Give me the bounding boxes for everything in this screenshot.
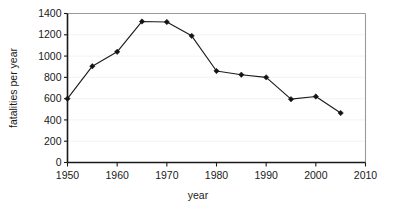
y-tick-label: 1400 — [38, 7, 62, 19]
x-tick-label: 1970 — [155, 169, 179, 181]
y-tick-label: 800 — [44, 71, 62, 83]
y-tick-label: 600 — [44, 92, 62, 104]
y-tick-label: 1000 — [38, 50, 62, 62]
y-tick-label: 0 — [56, 156, 62, 168]
y-axis-title: fatalities per year — [7, 48, 19, 128]
line-chart: 0200400600800100012001400 19501960197019… — [0, 0, 393, 215]
chart-figure: 0200400600800100012001400 19501960197019… — [0, 0, 393, 215]
x-tick-label: 1990 — [254, 169, 278, 181]
x-tick-label: 1950 — [56, 169, 80, 181]
x-tick-label: 1980 — [205, 169, 229, 181]
x-tick-label: 1960 — [105, 169, 129, 181]
y-tick-label: 1200 — [38, 28, 62, 40]
x-tick-label: 2010 — [354, 169, 378, 181]
y-tick-label: 200 — [44, 135, 62, 147]
y-tick-label: 400 — [44, 114, 62, 126]
x-tick-label: 2000 — [304, 169, 328, 181]
x-axis-title: year — [188, 189, 209, 201]
